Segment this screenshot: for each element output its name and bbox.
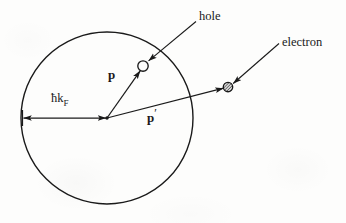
- diagram-canvas: [0, 0, 346, 223]
- fermi-momentum-label: ħkF: [51, 92, 69, 105]
- fermi-sphere-diagram: hole electron p p′ ħkF: [0, 0, 346, 223]
- electron-leader-line: [233, 44, 279, 84]
- momentum-p-prime-mark: ′: [154, 106, 157, 120]
- hole-leader-line: [149, 22, 196, 61]
- fermi-momentum-subscript: F: [64, 98, 69, 108]
- fermi-momentum-base: ħk: [51, 91, 64, 105]
- momentum-p-label: p: [108, 68, 115, 81]
- electron-marker: [223, 82, 232, 91]
- momentum-p-prime-label: p′: [147, 111, 157, 124]
- origin-point: [105, 116, 108, 119]
- hole-marker: [138, 61, 148, 71]
- hole-label: hole: [199, 10, 221, 23]
- electron-label: electron: [282, 36, 322, 49]
